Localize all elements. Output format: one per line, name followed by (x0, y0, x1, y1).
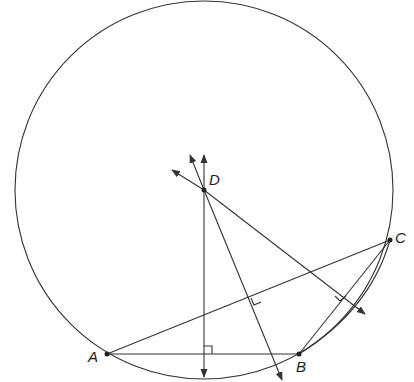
right-angle-ac (251, 298, 261, 305)
label-c: C (395, 229, 406, 246)
diagram-canvas: A B C D (0, 0, 414, 382)
point-d (202, 188, 207, 193)
perp-bisector-ac-up (190, 155, 204, 190)
perp-bisector-ac (204, 190, 282, 380)
point-c (388, 238, 393, 243)
perp-bisector-bc-up (172, 170, 204, 190)
label-b: B (296, 358, 306, 375)
geometry-figure (0, 0, 414, 382)
label-d: D (209, 171, 220, 188)
perp-bisector-bc (204, 190, 365, 314)
label-a: A (88, 348, 98, 365)
point-a (105, 352, 110, 357)
point-b (297, 352, 302, 357)
right-angle-ab (204, 346, 212, 354)
